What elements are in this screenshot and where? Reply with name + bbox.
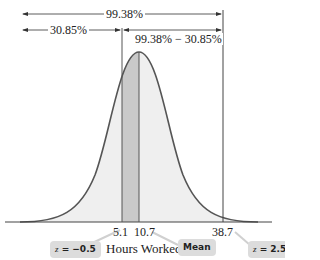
- callout-z-high-value: = 2.5: [257, 244, 285, 254]
- tick-label-5-1: 5.1: [113, 226, 128, 238]
- callout-z-high: z = 2.5: [248, 241, 285, 258]
- x-axis-label: Hours Worked: [106, 241, 182, 257]
- diff-percent-label: 99.38% − 30.85%: [134, 33, 223, 45]
- left-percent-label: 30.85%: [48, 24, 89, 36]
- total-percent-label: 99.38%: [104, 8, 145, 20]
- callout-z-low-value: = −0.5: [59, 244, 96, 254]
- tick-label-38-7: 38.7: [212, 226, 233, 238]
- tick-label-10-7: 10.7: [134, 226, 155, 238]
- callout-z-low: z = −0.5: [50, 241, 101, 258]
- shaded-band: [122, 40, 139, 222]
- callout-mean: Mean: [178, 239, 216, 256]
